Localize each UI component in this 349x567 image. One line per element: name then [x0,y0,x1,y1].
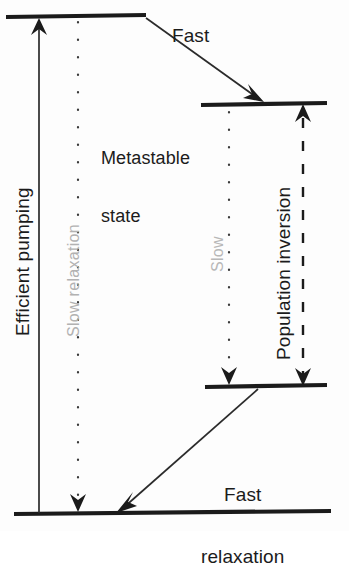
metastable-state-label-line2: state [101,207,190,226]
fast-relaxation-label: Fast relaxation [201,444,284,567]
upper-pump-level-line [6,15,146,17]
fast-relaxation-arrowhead [116,492,137,513]
fast-relaxation-label-line2: relaxation [201,547,284,567]
lower-laser-level-line [205,385,327,387]
slow-transition-arrowhead [221,367,237,385]
slow-relaxation-label: Slow relaxation [65,224,83,337]
population-inversion-label: Population inversion [273,187,295,360]
metastable-level-line [201,103,327,105]
slow-relaxation-arrowhead [70,494,86,512]
population-inversion-arrow [295,104,311,386]
slow-label: Slow [209,236,227,272]
metastable-state-label: Metastable state [101,110,190,266]
fast-transition-arrowhead [243,84,264,102]
fast-label: Fast [172,26,209,47]
fast-relaxation-label-line1: Fast [201,485,284,506]
efficient-pumping-label: Efficient pumping [12,187,34,336]
metastable-state-label-line1: Metastable [101,149,190,168]
